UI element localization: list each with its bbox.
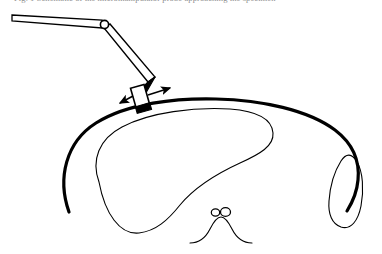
central-circle-left-icon bbox=[211, 209, 219, 216]
inner-mass-outline bbox=[96, 109, 273, 234]
figure-line-art bbox=[0, 0, 382, 254]
outer-boundary-arc bbox=[64, 99, 358, 212]
forearm-link bbox=[104, 24, 155, 82]
pivot-joint-icon bbox=[100, 20, 108, 28]
central-feature-curve bbox=[190, 217, 252, 243]
manipulator-arm-group bbox=[12, 15, 170, 113]
figure-root: Fig. 1 Schematic of the micromanipulator… bbox=[0, 0, 382, 254]
motion-arrow-left bbox=[120, 96, 133, 103]
central-circle-right-icon bbox=[221, 208, 231, 217]
anatomy-group bbox=[64, 99, 363, 243]
motion-arrow-right bbox=[148, 88, 170, 95]
upper-support-bar bbox=[12, 15, 102, 28]
